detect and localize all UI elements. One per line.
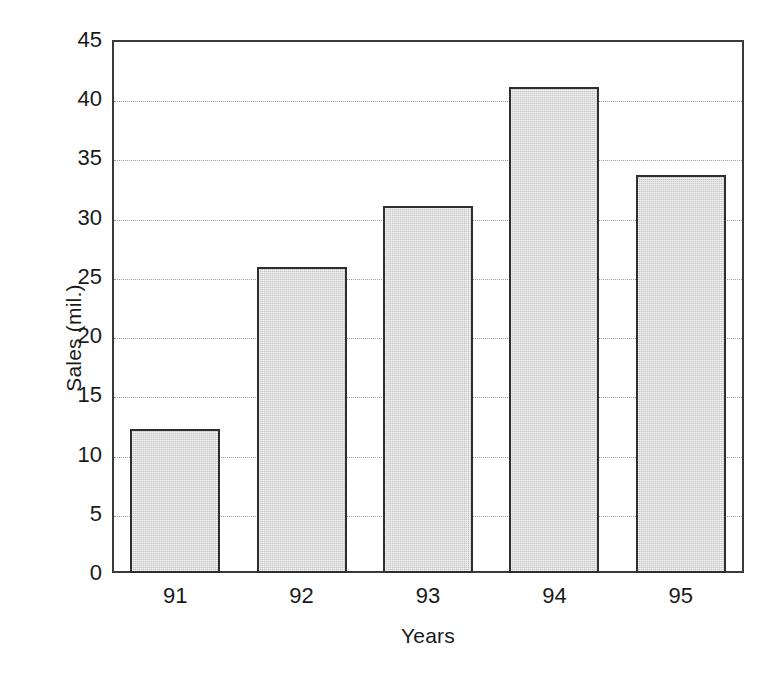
y-tick-label: 5 bbox=[56, 503, 102, 525]
y-tick-label: 40 bbox=[56, 88, 102, 110]
bar bbox=[383, 206, 473, 573]
y-axis-tick-labels: 051015202530354045 bbox=[42, 40, 102, 573]
x-tick-label: 91 bbox=[112, 582, 238, 610]
y-tick-label: 25 bbox=[56, 266, 102, 288]
y-tick-label: 45 bbox=[56, 29, 102, 51]
x-axis-tick-labels: 9192939495 bbox=[112, 582, 744, 616]
y-tick-label: 20 bbox=[56, 325, 102, 347]
x-tick-label: 95 bbox=[618, 582, 744, 610]
bar bbox=[130, 429, 220, 574]
y-tick-label: 0 bbox=[56, 562, 102, 584]
x-tick-label: 92 bbox=[238, 582, 364, 610]
y-tick-label: 10 bbox=[56, 444, 102, 466]
x-tick-label: 94 bbox=[491, 582, 617, 610]
x-axis-title: Years bbox=[112, 624, 744, 648]
x-tick-label: 93 bbox=[365, 582, 491, 610]
y-tick-label: 15 bbox=[56, 384, 102, 406]
y-tick-label: 30 bbox=[56, 207, 102, 229]
bar bbox=[257, 267, 347, 573]
bar bbox=[509, 87, 599, 573]
bar-chart: Sales (mil.) 051015202530354045 91929394… bbox=[0, 0, 762, 676]
y-tick-label: 35 bbox=[56, 147, 102, 169]
bars-container bbox=[112, 40, 744, 573]
bar bbox=[636, 175, 726, 573]
